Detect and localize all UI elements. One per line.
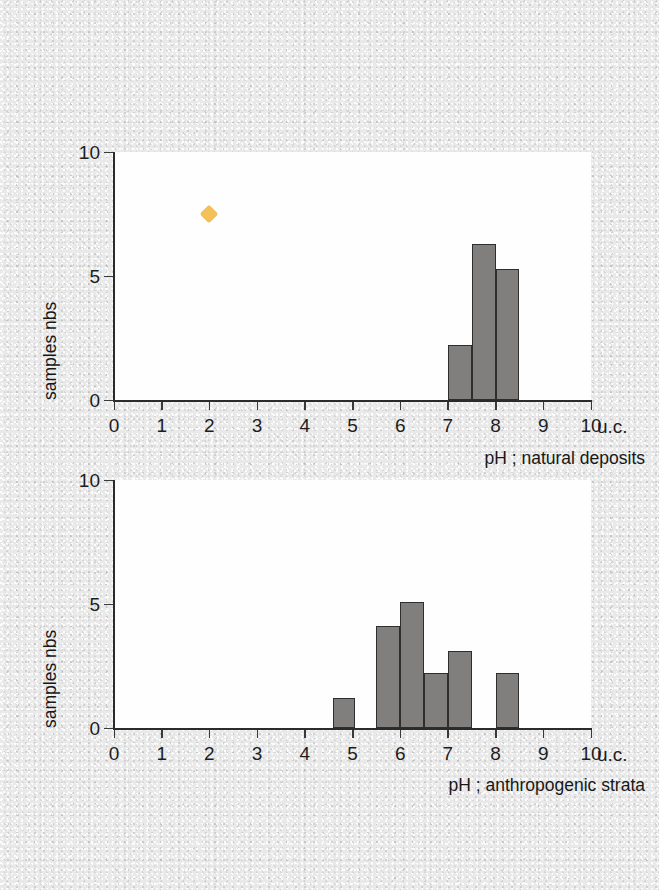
x-axis-tick <box>447 402 449 410</box>
x-axis-tick <box>209 730 211 738</box>
y-axis-tick-label: 5 <box>52 267 100 286</box>
y-axis-tick-label: 10 <box>52 471 100 490</box>
x-axis-tick <box>304 730 306 738</box>
x-axis-tick-label: 4 <box>300 416 311 435</box>
x-axis-tick-label: 0 <box>109 416 120 435</box>
y-axis-tick-label: 10 <box>52 143 100 162</box>
y-axis-tick-label: 5 <box>52 595 100 614</box>
x-axis-tick <box>114 402 116 410</box>
histogram-bar <box>376 626 400 728</box>
x-axis-tick <box>304 402 306 410</box>
x-axis-tick-label: 4 <box>300 744 311 763</box>
plot-area <box>114 480 591 728</box>
x-axis-tick-label: 2 <box>204 744 215 763</box>
y-axis-line <box>113 152 115 401</box>
histogram-bar <box>400 602 424 728</box>
x-axis-tick <box>543 402 545 410</box>
x-axis-tick-label: 5 <box>347 416 358 435</box>
x-axis-tick <box>591 402 593 410</box>
x-axis-tick-label: 7 <box>443 744 454 763</box>
x-axis-tick-label: 8 <box>490 744 501 763</box>
x-axis-tick-label: 1 <box>156 416 167 435</box>
x-axis-tick-label: 8 <box>490 416 501 435</box>
x-axis-title: pH ; anthropogenic strata <box>245 775 645 796</box>
x-axis-tick <box>400 730 402 738</box>
plot-area <box>114 152 591 400</box>
x-axis-tick-label: 9 <box>538 744 549 763</box>
x-axis-tick <box>257 730 259 738</box>
histogram-bar <box>333 698 354 728</box>
histogram-bar <box>448 651 472 728</box>
x-axis-tick <box>114 730 116 738</box>
y-axis-line <box>113 480 115 729</box>
x-axis-tick <box>447 730 449 738</box>
x-axis-tick-label: 2 <box>204 416 215 435</box>
histogram-bar <box>448 345 472 400</box>
x-axis-tick <box>352 730 354 738</box>
x-axis-tick <box>161 730 163 738</box>
x-axis-tick <box>400 402 402 410</box>
x-axis-tick <box>495 402 497 410</box>
x-axis-tick-label: 6 <box>395 416 406 435</box>
x-axis-title: pH ; natural deposits <box>245 448 645 469</box>
y-axis-tick <box>104 152 113 154</box>
x-axis-tick <box>257 402 259 410</box>
y-axis-tick <box>104 276 113 278</box>
x-axis-unit-label: u.c. <box>597 744 628 766</box>
histogram-bar <box>424 673 448 728</box>
x-axis-tick-label: 0 <box>109 744 120 763</box>
x-axis-tick-label: 7 <box>443 416 454 435</box>
y-axis-title: samples nbs <box>40 630 61 728</box>
histogram-bar <box>496 673 520 728</box>
x-axis-tick <box>209 402 211 410</box>
y-axis-tick <box>104 728 113 730</box>
x-axis-tick <box>543 730 545 738</box>
y-axis-title: samples nbs <box>40 302 61 400</box>
x-axis-tick-label: 5 <box>347 744 358 763</box>
scan-paper-texture <box>0 0 659 890</box>
x-axis-unit-label: u.c. <box>597 416 628 438</box>
histogram-bar <box>472 244 496 400</box>
histogram-bar <box>496 269 520 400</box>
x-axis-tick <box>161 402 163 410</box>
x-axis-tick-label: 3 <box>252 416 263 435</box>
x-axis-tick <box>352 402 354 410</box>
x-axis-tick-label: 6 <box>395 744 406 763</box>
y-axis-tick <box>104 400 113 402</box>
x-axis-tick-label: 3 <box>252 744 263 763</box>
x-axis-tick-label: 1 <box>156 744 167 763</box>
y-axis-tick <box>104 480 113 482</box>
x-axis-tick-label: 9 <box>538 416 549 435</box>
x-axis-tick <box>495 730 497 738</box>
x-axis-tick <box>591 730 593 738</box>
y-axis-tick <box>104 604 113 606</box>
